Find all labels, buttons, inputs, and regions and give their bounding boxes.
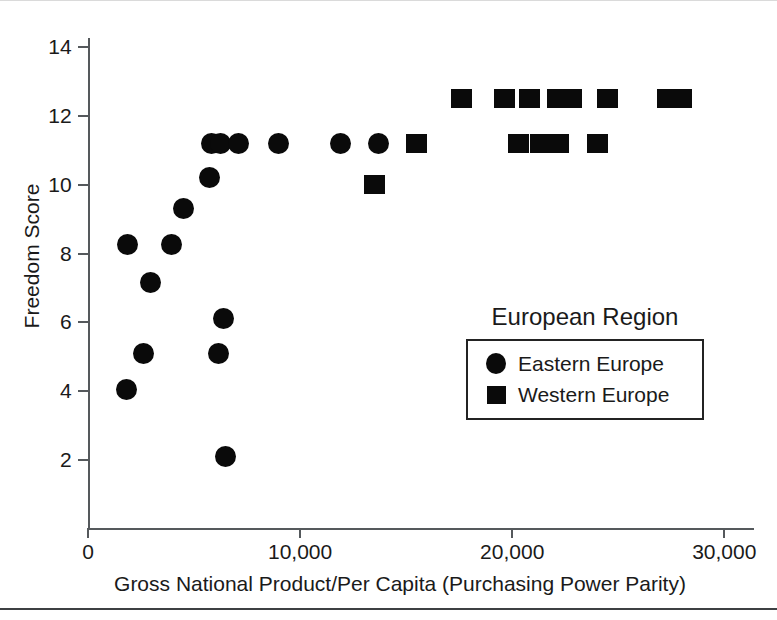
data-point-square: [587, 134, 608, 153]
y-tick-label-wrap: 12: [18, 105, 72, 126]
x-tick: [87, 528, 89, 538]
data-point-circle: [199, 167, 220, 188]
y-tick-label-wrap: 2: [18, 449, 72, 470]
y-tick: [78, 390, 88, 392]
y-tick: [78, 46, 88, 48]
y-tick: [78, 459, 88, 461]
legend-box: Eastern Europe Western Europe: [466, 339, 704, 420]
y-tick-label: 14: [32, 36, 72, 57]
x-tick-label: 30,000: [692, 540, 756, 564]
x-tick: [299, 528, 301, 538]
y-tick: [78, 184, 88, 186]
data-point-circle: [215, 446, 236, 467]
circle-marker-icon: [478, 353, 514, 374]
y-axis-line: [88, 38, 90, 530]
data-point-circle: [213, 308, 234, 329]
x-tick-label: 10,000: [268, 540, 332, 564]
legend: European Region Eastern Europe Western E…: [466, 303, 704, 420]
y-tick-label-wrap: 14: [18, 36, 72, 57]
x-tick-label: 0: [82, 540, 94, 564]
data-point-square: [548, 134, 569, 153]
legend-item-eastern-europe[interactable]: Eastern Europe: [478, 348, 692, 379]
x-axis-title: Gross National Product/Per Capita (Purch…: [60, 572, 740, 596]
data-point-square: [519, 89, 540, 108]
square-marker-icon: [478, 386, 514, 404]
scatter-plot-figure: 2468101214 010,00020,00030,000 Freedom S…: [0, 0, 777, 620]
bottom-divider: [0, 608, 777, 610]
x-axis-line: [88, 528, 754, 530]
data-point-square: [406, 134, 427, 153]
x-tick: [511, 528, 513, 538]
legend-item-label: Eastern Europe: [514, 352, 664, 376]
y-tick: [78, 253, 88, 255]
data-point-circle: [161, 234, 182, 255]
data-point-circle: [117, 234, 138, 255]
data-point-square: [494, 89, 515, 108]
data-point-square: [364, 175, 385, 194]
y-tick-label: 2: [32, 449, 72, 470]
data-point-circle: [133, 343, 154, 364]
x-tick: [723, 528, 725, 538]
data-point-circle: [116, 379, 137, 400]
y-tick-label: 4: [32, 380, 72, 401]
data-point-circle: [368, 133, 389, 154]
x-tick-label: 20,000: [480, 540, 544, 564]
data-point-circle: [140, 272, 161, 293]
data-point-square: [671, 89, 692, 108]
legend-item-western-europe[interactable]: Western Europe: [478, 379, 692, 410]
data-point-square: [561, 89, 582, 108]
y-tick: [78, 321, 88, 323]
data-point-circle: [330, 133, 351, 154]
data-point-square: [597, 89, 618, 108]
legend-title: European Region: [466, 303, 704, 331]
y-tick: [78, 115, 88, 117]
y-tick-label: 12: [32, 105, 72, 126]
data-point-circle: [268, 133, 289, 154]
plot-area: 2468101214 010,00020,00030,000 Freedom S…: [0, 0, 777, 620]
y-tick-label-wrap: 4: [18, 380, 72, 401]
data-point-circle: [208, 343, 229, 364]
data-point-square: [508, 134, 529, 153]
y-axis-title: Freedom Score: [21, 146, 43, 366]
data-point-circle: [173, 198, 194, 219]
data-point-square: [451, 89, 472, 108]
data-point-circle: [228, 133, 249, 154]
legend-item-label: Western Europe: [514, 383, 669, 407]
